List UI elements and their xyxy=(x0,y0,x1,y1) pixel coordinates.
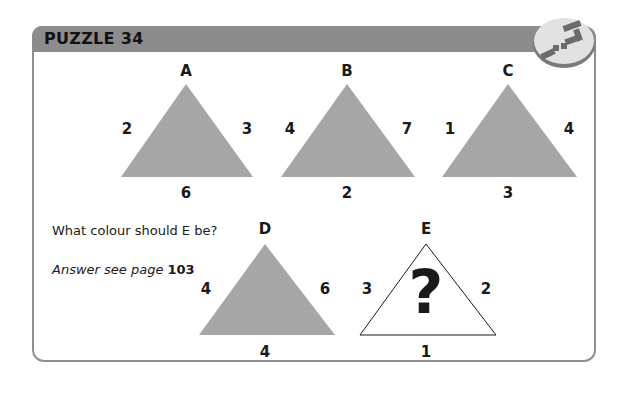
triangle-b-bottom: 2 xyxy=(342,184,352,202)
triangle-c-right: 4 xyxy=(564,120,574,138)
triangle-c-left: 1 xyxy=(445,120,455,138)
triangle-a xyxy=(121,84,253,177)
triangle-e-bottom: 1 xyxy=(421,343,431,361)
triangle-e-right: 2 xyxy=(481,280,491,298)
triangle-d xyxy=(199,244,335,335)
triangle-d-right: 6 xyxy=(320,280,330,298)
triangle-a-bottom: 6 xyxy=(181,184,191,202)
triangle-e-name: E xyxy=(421,220,431,238)
triangles-canvas xyxy=(0,0,629,393)
triangle-d-left: 4 xyxy=(201,280,211,298)
answer-prefix: Answer see page xyxy=(52,262,163,277)
triangle-b-left: 4 xyxy=(285,120,295,138)
triangle-a-right: 3 xyxy=(242,120,252,138)
triangle-c xyxy=(442,84,577,177)
answer-reference: Answer see page 103 xyxy=(52,262,195,277)
triangle-b-right: 7 xyxy=(402,120,412,138)
triangle-c-name: C xyxy=(502,62,513,80)
answer-page: 103 xyxy=(168,262,195,277)
triangle-b xyxy=(281,84,415,177)
triangle-d-name: D xyxy=(259,220,271,238)
triangle-b-name: B xyxy=(341,62,352,80)
triangle-c-bottom: 3 xyxy=(503,184,513,202)
triangle-d-bottom: 4 xyxy=(260,343,270,361)
triangle-a-left: 2 xyxy=(122,120,132,138)
triangle-a-name: A xyxy=(180,62,192,80)
triangle-e-left: 3 xyxy=(362,280,372,298)
question-mark-icon: ? xyxy=(409,262,444,322)
question-text: What colour should E be? xyxy=(52,223,217,238)
